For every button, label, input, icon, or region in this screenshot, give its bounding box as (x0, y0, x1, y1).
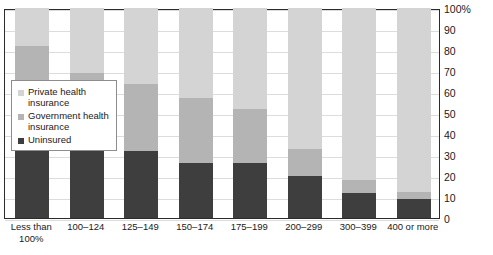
y-axis-tick: 90 (444, 25, 456, 35)
bar (233, 8, 267, 218)
y-axis-tick: 60 (444, 88, 456, 98)
legend-item-private: Private health insurance (18, 86, 111, 108)
bar-segment (288, 176, 322, 218)
bar-segment (397, 8, 431, 192)
x-axis-tick: 400 or more (386, 221, 441, 233)
bar-segment (233, 109, 267, 164)
bar (288, 8, 322, 218)
y-axis-tick: 0 (444, 214, 450, 224)
bar-segment (342, 8, 376, 180)
bar-segment (397, 192, 431, 199)
x-axis-tick: 175–199 (222, 221, 277, 233)
bar-segment (15, 8, 49, 46)
bar-segment (397, 199, 431, 218)
private-swatch-icon (18, 90, 24, 96)
x-axis: Less than 100%100–124125–149150–174175–1… (4, 221, 440, 255)
legend-label-private: Private health insurance (28, 86, 111, 108)
uninsured-swatch-icon (18, 138, 24, 144)
bar-segment (342, 180, 376, 193)
bar-segment (124, 84, 158, 151)
bar-segment (70, 8, 104, 73)
y-axis-tick: 20 (444, 172, 456, 182)
bar (397, 8, 431, 218)
x-axis-tick: 200–299 (277, 221, 332, 233)
bar-segment (342, 193, 376, 218)
y-axis-tick: 30 (444, 151, 456, 161)
x-axis-tick: 100–124 (59, 221, 114, 233)
bar-segment (179, 163, 213, 218)
stacked-bar-chart: 0102030405060708090100% Less than 100%10… (0, 0, 493, 255)
bar-segment (288, 8, 322, 149)
y-axis-tick: 70 (444, 67, 456, 77)
bar (179, 8, 213, 218)
bar-segment (124, 8, 158, 84)
bar-segment (179, 98, 213, 163)
bar (124, 8, 158, 218)
bar-segment (70, 151, 104, 218)
chart-legend: Private health insurance Government heal… (11, 80, 117, 151)
y-axis-tick: 40 (444, 130, 456, 140)
bar-segment (179, 8, 213, 98)
y-axis-tick: 100% (444, 4, 471, 14)
bar (342, 8, 376, 218)
legend-item-government: Government health insurance (18, 110, 111, 132)
legend-item-uninsured: Uninsured (18, 134, 111, 145)
bar-segment (288, 149, 322, 176)
legend-label-uninsured: Uninsured (28, 134, 71, 145)
x-axis-tick: 300–399 (331, 221, 386, 233)
y-axis-tick: 80 (444, 46, 456, 56)
bar-segment (233, 163, 267, 218)
y-axis-tick: 10 (444, 193, 456, 203)
bar-segment (15, 151, 49, 218)
legend-label-government: Government health insurance (28, 110, 111, 132)
government-swatch-icon (18, 114, 24, 120)
bar-segment (233, 8, 267, 109)
bar-segment (124, 151, 158, 218)
x-axis-tick: Less than 100% (4, 221, 59, 244)
y-axis: 0102030405060708090100% (444, 0, 493, 255)
y-axis-tick: 50 (444, 109, 456, 119)
x-axis-tick: 150–174 (168, 221, 223, 233)
x-axis-tick: 125–149 (113, 221, 168, 233)
